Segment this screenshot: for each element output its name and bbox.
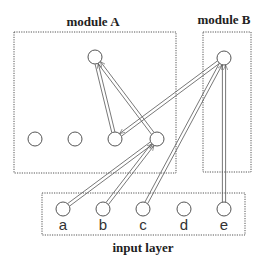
node-label-e: e [220,216,228,233]
node-d [177,202,191,216]
edge-A3-to-A_top [95,64,112,132]
node-label-b: b [99,216,107,233]
network-diagram: module Amodule Binput layerabcde [0,0,267,261]
node-b [96,202,110,216]
module-title-moduleB: module B [197,12,250,27]
connections [68,61,226,206]
node-label-d: d [180,216,188,233]
node-c [136,202,150,216]
node-A1 [28,132,42,146]
module-title-moduleA: module A [66,14,120,29]
edge-A3-to-A_top [98,63,115,131]
node-label-a: a [59,216,68,233]
module-title-input: input layer [112,240,173,255]
edge-a-to-A4 [70,144,153,206]
edge-b-to-A4 [109,146,154,205]
node-a [56,202,70,216]
node-A4 [150,132,164,146]
node-B [217,51,231,65]
edge-B-to-A3 [122,63,220,136]
node-e [217,202,231,216]
edge-A4-to-A_top [100,62,154,133]
node-label-c: c [139,216,147,233]
edge-A4-to-A_top [98,64,152,135]
node-A_top [88,50,102,64]
nodes [28,50,231,216]
node-A3 [108,132,122,146]
node-A2 [68,132,82,146]
